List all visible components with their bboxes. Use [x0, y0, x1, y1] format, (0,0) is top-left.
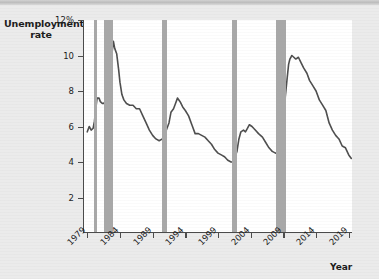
- recession-bar: [94, 20, 98, 233]
- y-tick-label: 8: [0, 86, 74, 96]
- y-axis-title-line2: rate: [4, 29, 78, 40]
- x-tick-mark: [153, 233, 154, 238]
- y-tick-label: 6: [0, 122, 74, 132]
- x-tick-mark: [185, 233, 186, 238]
- y-tick-mark: [78, 91, 84, 92]
- x-tick-mark: [218, 233, 219, 238]
- plot-area: [84, 20, 352, 233]
- y-tick-mark: [78, 20, 84, 21]
- unemployment-rate-chart: Unemployment rate 12%108642 197919841989…: [0, 0, 379, 279]
- x-tick-mark: [87, 233, 88, 238]
- y-tick-label: 12%: [0, 15, 74, 25]
- x-tick-label: 1979: [65, 225, 87, 247]
- unemployment-line-series: [84, 20, 352, 233]
- x-tick-mark: [120, 233, 121, 238]
- recession-bar: [276, 20, 286, 233]
- y-tick-label: 10: [0, 51, 74, 61]
- x-axis-title: Year: [330, 262, 352, 272]
- y-tick-mark: [78, 56, 84, 57]
- x-tick-mark: [251, 233, 252, 238]
- y-tick-mark: [78, 162, 84, 163]
- y-tick-label: 4: [0, 157, 74, 167]
- y-tick-mark: [78, 127, 84, 128]
- x-tick-mark: [316, 233, 317, 238]
- y-tick-label: 2: [0, 193, 74, 203]
- recession-bar: [162, 20, 167, 233]
- y-tick-mark: [78, 198, 84, 199]
- x-tick-mark: [349, 233, 350, 238]
- recession-bar: [232, 20, 237, 233]
- x-tick-mark: [283, 233, 284, 238]
- recession-bar: [104, 20, 113, 233]
